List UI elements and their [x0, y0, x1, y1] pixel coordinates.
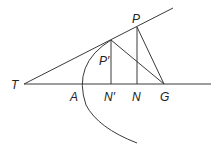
label-g: G — [160, 90, 169, 104]
normal-p-g — [137, 27, 164, 84]
label-p-prime: P′ — [99, 54, 110, 68]
label-p: P — [132, 12, 140, 26]
label-n-prime: N′ — [104, 90, 116, 104]
label-n: N — [132, 90, 141, 104]
label-t: T — [11, 78, 20, 92]
parabola-diagram: T A N′ N G P P′ — [0, 0, 223, 151]
label-a: A — [69, 90, 78, 104]
